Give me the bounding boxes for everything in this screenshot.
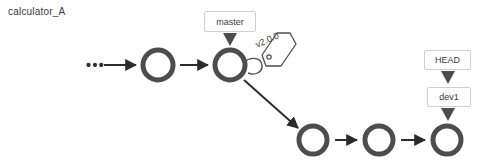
history-truncation-indicator: ••• <box>86 58 105 72</box>
commit-node[interactable] <box>215 50 245 80</box>
master-pointer-arrow <box>223 33 237 46</box>
edge-commit-2-commit-3 <box>244 80 298 128</box>
commit-node[interactable] <box>299 126 327 154</box>
branch-label-dev1[interactable]: dev1 <box>427 87 471 107</box>
head-pointer-arrow <box>441 71 455 84</box>
commit-node[interactable] <box>143 50 173 80</box>
branch-label-master[interactable]: master <box>204 11 256 32</box>
head-label[interactable]: HEAD <box>424 50 471 70</box>
dev1-pointer-arrow <box>441 108 455 121</box>
commit-node[interactable] <box>365 126 393 154</box>
git-graph-diagram: calculator_A <box>0 0 482 164</box>
commit-node[interactable] <box>433 126 461 154</box>
